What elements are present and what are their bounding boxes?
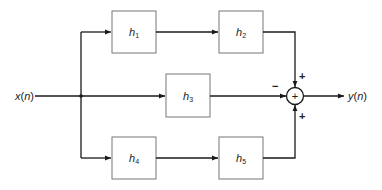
input-label: x(n)	[14, 90, 34, 102]
sign-bottom: +	[299, 110, 305, 122]
sign-top: +	[299, 70, 305, 82]
block-h2: h2	[219, 11, 263, 53]
block-diagram: x(n) h1 h2 + h3 − + y(n) h4 h5 +	[0, 0, 382, 190]
arrow-h5-to-summer	[263, 105, 295, 158]
block-h5: h5	[219, 137, 263, 179]
summing-junction: +	[287, 88, 304, 105]
arrow-h2-to-summer	[263, 32, 295, 87]
block-h4: h4	[112, 137, 156, 179]
sign-left: −	[272, 80, 278, 92]
output-label: y(n)	[347, 90, 367, 102]
block-h1: h1	[112, 11, 156, 53]
plus-icon: +	[292, 90, 298, 102]
block-h3: h3	[166, 74, 210, 117]
